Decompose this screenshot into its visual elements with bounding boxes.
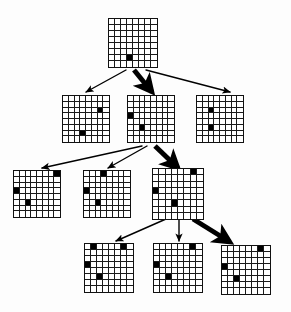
depth1-state-middle[interactable] <box>127 95 175 143</box>
grid-cell <box>124 211 130 217</box>
edge-middle-to-middle <box>108 146 147 168</box>
grid-cell <box>151 61 157 67</box>
depth3-state-middle[interactable] <box>153 243 203 293</box>
grid-cell <box>237 136 243 142</box>
grid-cell <box>54 211 60 217</box>
depth2-state-middle[interactable] <box>83 170 131 218</box>
grid-cell <box>127 286 133 292</box>
edge-root-to-middle <box>134 70 152 92</box>
edge-root-to-left <box>86 70 126 92</box>
grid-cell <box>168 136 174 142</box>
root-state[interactable] <box>108 18 158 68</box>
edge-root-to-right <box>146 70 230 92</box>
depth2-state-right[interactable] <box>152 168 204 220</box>
depth1-state-right[interactable] <box>196 95 244 143</box>
depth3-state-right[interactable] <box>221 245 271 295</box>
grid-cell <box>264 288 270 294</box>
grid-cell <box>196 286 202 292</box>
grid-search-tree-diagram <box>0 0 291 312</box>
edge-middle-to-left <box>42 146 142 168</box>
depth1-state-left[interactable] <box>62 95 110 143</box>
edge-middle-to-right <box>155 146 178 168</box>
edge-right-to-right <box>193 219 230 242</box>
edge-right-to-left <box>116 219 166 241</box>
depth3-state-left[interactable] <box>84 243 134 293</box>
depth2-state-left[interactable] <box>13 170 61 218</box>
grid-cell <box>103 136 109 142</box>
grid-cell <box>197 213 203 219</box>
